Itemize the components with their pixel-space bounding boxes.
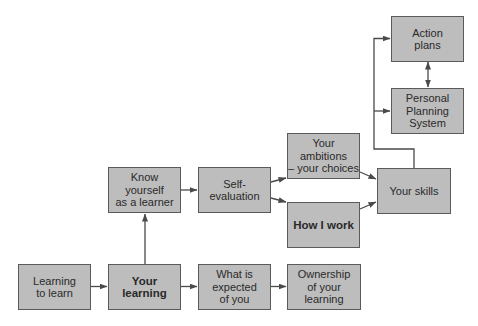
node-personal-planning-system: Personal Planning System xyxy=(391,88,464,134)
arrow-self-eval-to-ambitions xyxy=(271,178,286,182)
node-your-ambitions: Your ambitions – your choices xyxy=(287,133,360,179)
arrow-ambitions-to-skills xyxy=(360,172,376,179)
node-action-plans: Action plans xyxy=(391,16,464,62)
arrow-how-i-work-to-skills xyxy=(360,202,376,209)
node-your-skills: Your skills xyxy=(377,168,451,214)
node-learning-to-learn: Learning to learn xyxy=(18,264,91,310)
node-know-yourself: Know yourself as a learner xyxy=(108,167,181,213)
node-ownership: Ownership of your learning xyxy=(287,264,361,310)
node-what-is-expected: What is expected of you xyxy=(198,264,271,310)
arrow-self-eval-to-how-i-work xyxy=(271,198,286,202)
node-self-evaluation: Self- evaluation xyxy=(198,167,271,213)
node-how-i-work: How I work xyxy=(287,202,360,248)
node-your-learning: Your learning xyxy=(108,264,181,310)
